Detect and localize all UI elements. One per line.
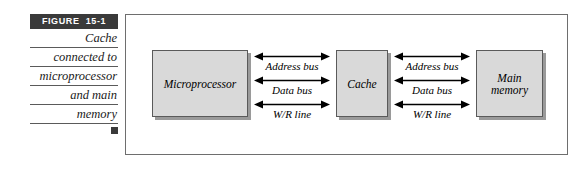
diagram-node-cache: Cache [336,50,388,117]
bus-line-wr: W/R line [254,100,330,124]
bus-group-cache-to-main-memory: Address bus Data bus [394,50,470,122]
node-label: memory [491,84,528,96]
caption-line: connected to [30,48,118,67]
bus-line-address: Address bus [394,52,470,76]
caption-end-marker-row [30,124,118,138]
diagram-node-microprocessor: Microprocessor [152,50,248,117]
node-label: Cache [347,78,376,90]
bus-label: W/R line [254,108,330,120]
figure-page: FIGURE 15-1 Cache connected to microproc… [0,0,586,176]
bus-group-microprocessor-to-cache: Address bus Data bus [254,50,330,122]
bus-line-wr: W/R line [394,100,470,124]
caption-line: and main [30,86,118,105]
caption-line: memory [30,105,118,124]
bus-label: Data bus [254,84,330,96]
bus-line-address: Address bus [254,52,330,76]
caption-line: Cache [30,29,118,48]
bus-label: W/R line [394,108,470,120]
figure-number-tag: FIGURE 15-1 [30,14,118,29]
bus-line-data: Data bus [394,76,470,100]
bus-label: Address bus [254,60,330,72]
node-label: Microprocessor [164,78,237,90]
bus-label: Address bus [394,60,470,72]
figure-frame: Microprocessor Address bus [125,14,568,155]
diagram-node-main-memory: Main memory [476,50,543,117]
figure-caption-column: FIGURE 15-1 Cache connected to microproc… [30,14,118,138]
square-marker-icon [111,127,118,134]
caption-line: microprocessor [30,67,118,86]
bus-label: Data bus [394,84,470,96]
bus-line-data: Data bus [254,76,330,100]
node-label: Main [491,72,528,84]
